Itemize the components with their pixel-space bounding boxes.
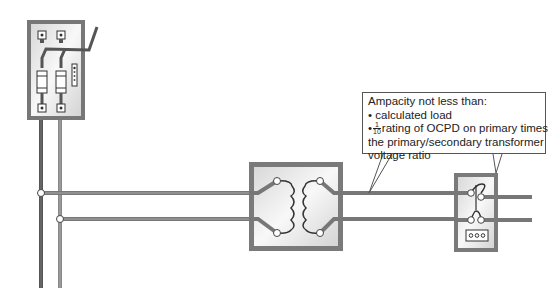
supply-conductors — [41, 108, 60, 288]
junction-node — [57, 216, 64, 223]
callout-bullet-1: • calculated load — [368, 109, 540, 123]
diagram-canvas: Ampacity not less than: • calculated loa… — [0, 0, 554, 299]
callout-bullet-2: •110rating of OCPD on primary times — [368, 122, 540, 136]
fraction: 110 — [373, 122, 381, 135]
transformer — [249, 162, 343, 251]
primary-conductors — [41, 193, 255, 219]
callout-line-4: the primary/secondary transformer — [368, 136, 540, 150]
junction-node — [38, 190, 45, 197]
callout-heading: Ampacity not less than: — [368, 95, 540, 109]
ampacity-callout: Ampacity not less than: • calculated loa… — [362, 92, 546, 154]
callout-line-5: voltage ratio — [368, 149, 540, 163]
secondary-conductors — [343, 193, 532, 220]
secondary-panel — [454, 173, 498, 252]
disconnect-switch — [27, 20, 97, 120]
